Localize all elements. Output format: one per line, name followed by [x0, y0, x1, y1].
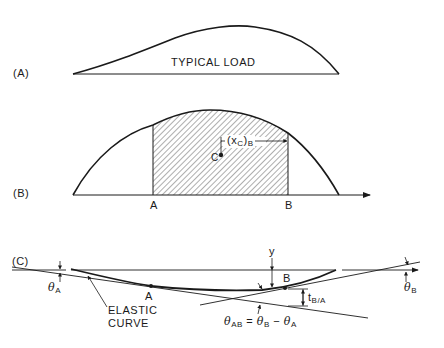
eq-sign: = — [243, 315, 257, 327]
point-a-label-c: A — [145, 291, 153, 302]
elastic-curve — [71, 269, 336, 290]
point-a-label-b: A — [150, 200, 158, 211]
panel-c-label: (C) — [12, 256, 29, 267]
eq-lhs-sub: AB — [231, 320, 243, 329]
theta-a-sub: A — [55, 286, 61, 295]
centroid-label: C — [211, 153, 219, 163]
point-b-dot — [283, 286, 287, 290]
elastic-line2: CURVE — [108, 317, 157, 330]
beam-deflection-diagram — [0, 0, 444, 348]
theta-a-label: θA — [48, 282, 61, 295]
point-b-label-c: B — [283, 273, 291, 284]
eq-minus: − — [270, 315, 284, 327]
dim-open: (x — [227, 134, 237, 146]
point-a-dot — [149, 284, 153, 288]
theta-b-sub: B — [411, 286, 417, 295]
t-ba-sub: B/A — [312, 296, 326, 305]
elastic-line1: ELASTIC — [108, 304, 157, 317]
dim-sub2: B — [248, 139, 254, 148]
typical-load-label: TYPICAL LOAD — [171, 57, 255, 68]
y-label: y — [269, 246, 275, 257]
panel-a-label: (A) — [13, 68, 29, 79]
eq-t2-sub: A — [291, 320, 297, 329]
panel-b-moment-diagram — [73, 110, 370, 195]
centroid-point — [219, 153, 223, 157]
elastic-curve-label: ELASTIC CURVE — [108, 304, 157, 330]
theta-ab-equation: θAB = θB − θA — [224, 316, 297, 329]
t-ba-label: tB/A — [308, 292, 326, 305]
eq-t1: θ — [257, 315, 264, 328]
theta-b-label: θB — [404, 282, 417, 295]
point-b-label-b: B — [285, 200, 293, 211]
eq-t2: θ — [284, 315, 291, 328]
panel-c-elastic-curve — [12, 257, 420, 318]
panel-b-label: (B) — [13, 188, 29, 199]
centroid-distance-label: (xC)B — [225, 135, 255, 148]
